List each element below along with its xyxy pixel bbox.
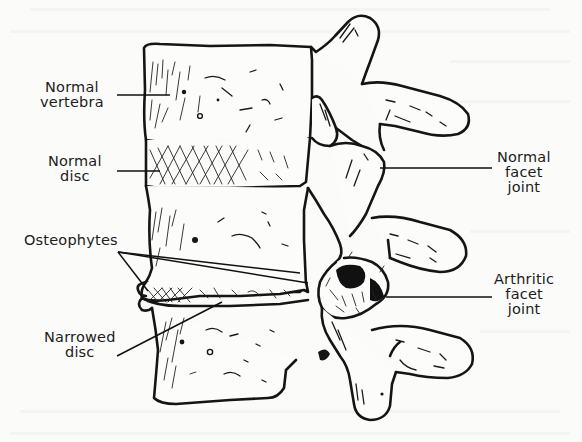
normal-vertebra-posterior [311, 16, 469, 150]
narrowed-disc [138, 282, 308, 311]
spine-diagram: Normal vertebra Normal disc Osteophytes … [0, 0, 582, 442]
label-arthritic-facet-joint: Arthritic facet joint [494, 272, 554, 317]
arthritic-facet-joint [318, 252, 388, 318]
normal-vertebra-body [144, 44, 312, 142]
bottom-vertebra-body [152, 308, 296, 404]
bottom-vertebra-posterior [318, 308, 473, 420]
label-normal-facet-joint: Normal facet joint [497, 150, 551, 195]
label-narrowed-disc: Narrowed disc [44, 330, 116, 360]
label-normal-disc: Normal disc [48, 154, 102, 184]
middle-vertebra-body [146, 186, 308, 292]
middle-vertebra-posterior [308, 143, 466, 272]
label-normal-vertebra: Normal vertebra [40, 80, 104, 110]
normal-disc [146, 138, 310, 188]
leader-osteophytes-1 [118, 252, 148, 291]
label-osteophytes: Osteophytes [24, 233, 118, 248]
spine-illustration [0, 0, 582, 442]
